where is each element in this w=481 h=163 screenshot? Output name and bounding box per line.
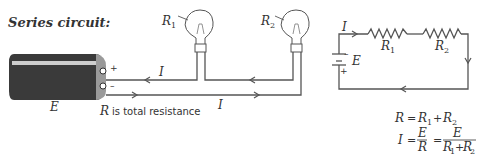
- resistor2-label: R: [434, 39, 444, 53]
- bulb2-label: R: [260, 14, 270, 28]
- svg-text:R: R: [394, 111, 404, 125]
- svg-text:1: 1: [427, 118, 432, 127]
- battery: [9, 54, 106, 100]
- bulb1-label: R: [161, 14, 171, 28]
- resistor-r2-icon: [423, 29, 461, 38]
- pictorial-wires: [106, 51, 301, 95]
- bulb-r1-icon: [178, 10, 213, 52]
- svg-text:=: =: [407, 134, 416, 147]
- resistor1-subscript: 1: [390, 46, 395, 55]
- svg-text:E: E: [452, 126, 462, 140]
- equation-current: I = E R = E R 1 + R 2: [397, 126, 476, 156]
- schematic-current-label: I: [341, 20, 347, 34]
- current-label-bottom: I: [217, 98, 223, 112]
- svg-text:=: =: [433, 134, 442, 147]
- schematic-emf-label: E: [351, 54, 361, 68]
- current-label-top: I: [158, 65, 164, 79]
- svg-text:R: R: [417, 111, 427, 125]
- resistor-r1-icon: [368, 29, 407, 38]
- diagram-title: Series circuit:: [8, 15, 111, 30]
- svg-text:I: I: [397, 133, 403, 147]
- bulb-r2-icon: [275, 10, 309, 52]
- schematic-plus-sign: +: [340, 66, 348, 76]
- svg-text:E: E: [417, 126, 427, 140]
- bulb2-subscript: 2: [270, 21, 275, 30]
- battery-minus-sign: –: [110, 81, 115, 91]
- svg-text:2: 2: [470, 147, 475, 156]
- battery-emf-label: E: [49, 100, 59, 114]
- svg-text:=: =: [407, 112, 416, 125]
- caption-text: is total resistance: [112, 106, 201, 117]
- resistor2-subscript: 2: [444, 46, 449, 55]
- battery-plus-sign: +: [110, 63, 118, 73]
- caption: R: [99, 104, 109, 118]
- schematic-minus-sign: –: [344, 49, 349, 59]
- svg-text:R: R: [417, 140, 427, 154]
- resistor1-label: R: [380, 39, 390, 53]
- svg-text:R: R: [442, 111, 452, 125]
- equation-total-resistance: R = R 1 + R 2: [394, 111, 457, 127]
- svg-text:+: +: [433, 112, 442, 125]
- bulb1-subscript: 1: [171, 21, 176, 30]
- series-circuit-diagram: Series circuit: + – E I I R 1 R 2 R: [0, 0, 481, 163]
